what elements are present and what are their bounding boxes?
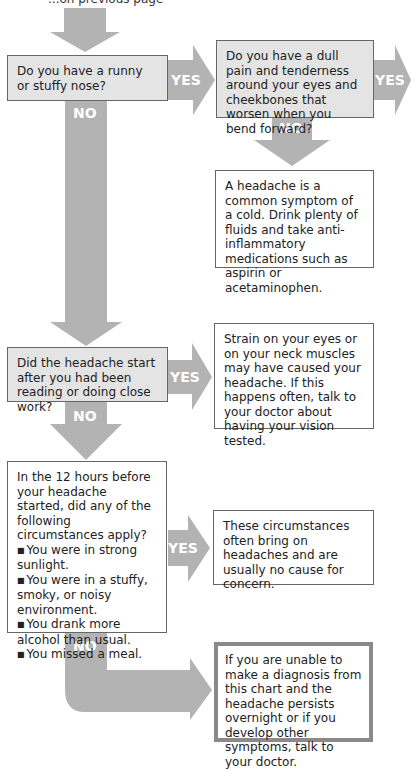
circumstances-list: You were in strong sunlight. You were in…	[17, 543, 157, 663]
question-runny-nose: Do you have a runny or stuffy nose?	[7, 55, 168, 101]
no-label-q1: NO	[73, 105, 97, 121]
circumstance-item: You missed a meal.	[17, 647, 157, 663]
yes-label-q4: YES	[168, 540, 198, 556]
question-close-work: Did the headache start after you had bee…	[7, 347, 168, 402]
question-circumstances: In the 12 hours before your headache sta…	[7, 461, 167, 633]
circumstance-item: You were in strong sunlight.	[17, 543, 157, 573]
circumstance-item: You drank more alcohol than usual.	[17, 617, 157, 647]
result-eye-strain: Strain on your eyes or on your neck musc…	[214, 323, 374, 429]
circumstances-question-text: In the 12 hours before your headache sta…	[17, 470, 157, 543]
result-cold: A headache is a common symptom of a cold…	[215, 170, 374, 268]
question-sinus-pain: Do you have a dull pain and tenderness a…	[216, 40, 374, 118]
circumstance-item: You were in a stuffy, smoky, or noisy en…	[17, 573, 157, 618]
no-label-q3: NO	[73, 408, 97, 424]
result-see-doctor: If you are unable to make a diagnosis fr…	[214, 642, 373, 742]
yes-label-q3: YES	[170, 369, 200, 385]
yes-label-q1: YES	[171, 72, 201, 88]
result-circumstances: These circumstances often bring on heada…	[213, 510, 374, 585]
yes-label-q2: YES	[375, 72, 405, 88]
